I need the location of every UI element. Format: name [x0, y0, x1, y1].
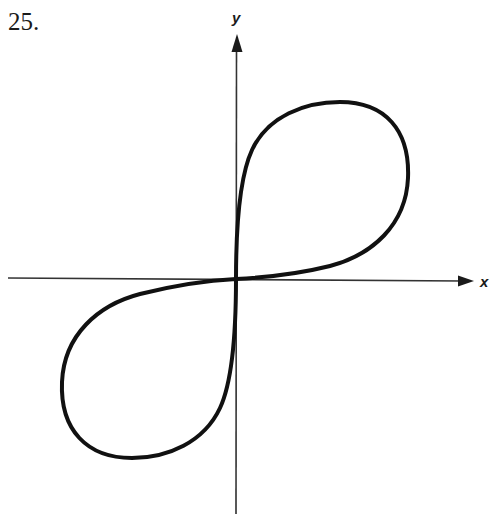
lower-loop: [62, 279, 236, 458]
upper-loop: [236, 102, 408, 279]
y-axis-arrowhead-icon: [232, 34, 243, 52]
x-axis-arrowhead-icon: [458, 276, 474, 287]
graph-figure: [0, 0, 492, 514]
